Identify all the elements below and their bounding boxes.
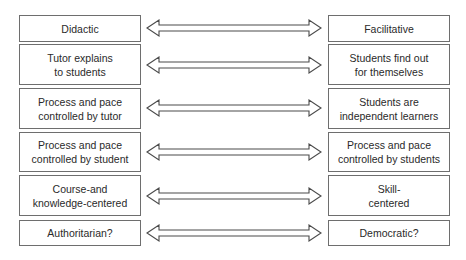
box-label-line: Tutor explains [47,51,113,65]
box-label-line: Process and pace [338,138,440,152]
double-arrow-icon [145,143,323,161]
left-box-pace-by-student: Process and pacecontrolled by student [19,132,141,172]
box-label-line: knowledge-centered [33,196,128,210]
box-label-line: Process and pace [32,138,129,152]
double-arrow-icon [145,224,323,242]
double-arrow-icon [145,56,323,74]
left-box-didactic: Didactic [19,15,141,42]
box-label-line: Skill- [369,182,410,196]
box-label-line: independent learners [340,109,439,123]
double-arrow-icon [145,19,323,37]
box-label-line: Students find out [350,51,429,65]
box-label-line: Course-and [33,182,128,196]
right-box-facilitative: Facilitative [328,15,450,42]
box-label-line: for themselves [350,65,429,79]
box-label-line: controlled by tutor [38,109,122,123]
box-label: Didactic [61,22,98,36]
left-box-tutor-explains: Tutor explainsto students [19,44,141,85]
box-label-line: centered [369,196,410,210]
box-label-line: to students [47,65,113,79]
box-label-line: Process and pace [38,95,122,109]
left-box-knowledge-centered: Course-andknowledge-centered [19,175,141,216]
left-box-authoritarian: Authoritarian? [19,220,141,246]
box-label: Authoritarian? [47,226,112,240]
right-box-skill-centered: Skill-centered [328,175,450,216]
right-box-students-find-out: Students find outfor themselves [328,44,450,85]
box-label-line: controlled by student [32,152,129,166]
right-box-pace-by-students: Process and pacecontrolled by students [328,132,450,172]
double-arrow-icon [145,187,323,205]
box-label: Democratic? [360,226,419,240]
right-box-democratic: Democratic? [328,220,450,246]
left-box-pace-by-tutor: Process and pacecontrolled by tutor [19,88,141,129]
right-box-independent-learners: Students areindependent learners [328,88,450,129]
box-label-line: Students are [340,95,439,109]
double-arrow-icon [145,99,323,117]
box-label-line: controlled by students [338,152,440,166]
box-label: Facilitative [364,22,414,36]
